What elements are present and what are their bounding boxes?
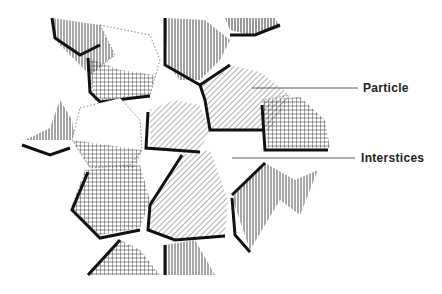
interstices-label: Interstices [361, 151, 424, 165]
particle-shape [70, 165, 150, 238]
particle-shape [232, 163, 318, 252]
particle-packing-illustration [0, 0, 442, 294]
particle-shape [22, 98, 142, 168]
particle-label: Particle [363, 81, 409, 95]
particle-shape [52, 18, 160, 102]
particle-shape [146, 100, 210, 152]
particle-shape [88, 240, 215, 275]
particle-shape [200, 65, 330, 150]
particle-shape [148, 150, 228, 240]
